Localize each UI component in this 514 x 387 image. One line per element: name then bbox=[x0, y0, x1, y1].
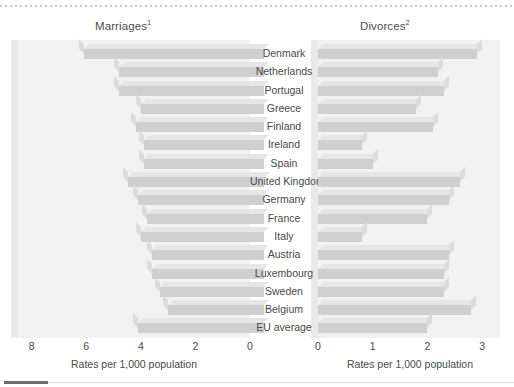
bar-end-cap bbox=[460, 167, 465, 182]
bar-top-face bbox=[318, 264, 449, 269]
marriages-title-footnote: 1 bbox=[147, 18, 151, 27]
bar-top-face bbox=[318, 282, 449, 287]
divorces-bar bbox=[318, 269, 444, 279]
divorces-axis-tick: 2 bbox=[424, 340, 430, 352]
marriages-axis-tick: 4 bbox=[138, 340, 144, 352]
chart-row: Finland bbox=[0, 117, 514, 135]
bar-end-cap bbox=[427, 313, 432, 328]
marriages-bar bbox=[84, 49, 264, 59]
divorces-axis-tick: 3 bbox=[479, 340, 485, 352]
divorces-bar bbox=[318, 305, 471, 315]
bar-top-face bbox=[318, 172, 465, 177]
divorces-axis-tick: 0 bbox=[315, 340, 321, 352]
bar-top-face bbox=[128, 172, 270, 177]
marriages-bar bbox=[138, 195, 264, 205]
bar-top-face bbox=[318, 135, 367, 140]
divorces-title-footnote: 2 bbox=[406, 18, 410, 27]
marriages-title-text: Marriages bbox=[95, 20, 147, 32]
divorces-bar bbox=[318, 323, 427, 333]
marriages-axis-label: Rates per 1,000 population bbox=[71, 358, 197, 370]
chart-row: Ireland bbox=[0, 135, 514, 153]
bar-top-face bbox=[84, 44, 269, 49]
country-label: Spain bbox=[250, 154, 318, 172]
bar-top-face bbox=[318, 318, 432, 323]
chart-row: Portugal bbox=[0, 81, 514, 99]
bar-top-face bbox=[318, 81, 449, 86]
bar-top-face bbox=[318, 300, 476, 305]
marriages-chart-title: Marriages1 bbox=[95, 18, 151, 32]
marriages-axis-tick: 2 bbox=[192, 340, 198, 352]
divorces-bar bbox=[318, 214, 427, 224]
bar-end-cap bbox=[449, 240, 454, 255]
country-label: Netherlands bbox=[250, 62, 318, 80]
bar-end-cap bbox=[449, 185, 454, 200]
divorces-chart-title: Divorces2 bbox=[360, 18, 410, 32]
bottom-marker bbox=[4, 381, 48, 384]
chart-row: France bbox=[0, 209, 514, 227]
bar-top-face bbox=[318, 227, 367, 232]
country-label: Ireland bbox=[250, 135, 318, 153]
chart-row: Italy bbox=[0, 227, 514, 245]
divorces-axis-tick: 1 bbox=[370, 340, 376, 352]
chart-row: Sweden bbox=[0, 282, 514, 300]
divorces-bar bbox=[318, 232, 362, 242]
country-label: Italy bbox=[250, 227, 318, 245]
divorces-title-text: Divorces bbox=[360, 20, 406, 32]
divorces-bar bbox=[318, 67, 438, 77]
country-label: France bbox=[250, 209, 318, 227]
country-label: United Kingdom bbox=[250, 172, 318, 190]
marriages-axis-tick: 0 bbox=[247, 340, 253, 352]
bar-top-face bbox=[318, 44, 482, 49]
chart-row: United Kingdom bbox=[0, 172, 514, 190]
marriages-bar bbox=[141, 104, 264, 114]
bar-top-face bbox=[318, 99, 421, 104]
chart-rows: DenmarkNetherlandsPortugalGreeceFinlandI… bbox=[0, 44, 514, 336]
bar-top-face bbox=[136, 117, 269, 122]
marriages-axis-tick: 8 bbox=[29, 340, 35, 352]
marriages-bar bbox=[138, 323, 264, 333]
divorces-bar bbox=[318, 250, 449, 260]
country-label: Sweden bbox=[250, 282, 318, 300]
country-label: Denmark bbox=[250, 44, 318, 62]
chart-row: Belgium bbox=[0, 300, 514, 318]
marriages-bar bbox=[144, 140, 264, 150]
bar-top-face bbox=[318, 190, 454, 195]
marriages-bar bbox=[147, 214, 264, 224]
divorces-bar bbox=[318, 104, 416, 114]
country-label: Belgium bbox=[250, 300, 318, 318]
marriages-bar bbox=[119, 67, 264, 77]
marriages-bar bbox=[144, 159, 264, 169]
bar-top-face bbox=[318, 117, 438, 122]
country-label: Germany bbox=[250, 190, 318, 208]
country-label: Portugal bbox=[250, 81, 318, 99]
bar-end-cap bbox=[427, 204, 432, 219]
marriages-bar bbox=[160, 287, 264, 297]
divorces-bar bbox=[318, 195, 449, 205]
chart-row: Austria bbox=[0, 245, 514, 263]
chart-row: Denmark bbox=[0, 44, 514, 62]
country-label: EU average bbox=[250, 318, 318, 336]
marriages-bar bbox=[136, 122, 264, 132]
bar-end-cap bbox=[416, 94, 421, 109]
marriages-bar bbox=[152, 250, 264, 260]
country-label: Austria bbox=[250, 245, 318, 263]
divorces-bar bbox=[318, 177, 460, 187]
bar-top-face bbox=[119, 81, 269, 86]
marriages-bar bbox=[119, 86, 264, 96]
bar-end-cap bbox=[433, 112, 438, 127]
country-label: Finland bbox=[250, 117, 318, 135]
chart-row: EU average bbox=[0, 318, 514, 336]
marriages-bar bbox=[152, 269, 264, 279]
chart-row: Germany bbox=[0, 190, 514, 208]
divorces-bar bbox=[318, 159, 373, 169]
divorces-axis-label: Rates per 1,000 population bbox=[347, 358, 473, 370]
chart-row: Netherlands bbox=[0, 62, 514, 80]
bar-top-face bbox=[119, 62, 269, 67]
bar-end-cap bbox=[362, 130, 367, 145]
divorces-bar bbox=[318, 287, 444, 297]
divorces-bar bbox=[318, 49, 477, 59]
country-label: Greece bbox=[250, 99, 318, 117]
chart-row: Luxembourg bbox=[0, 264, 514, 282]
bar-top-face bbox=[318, 245, 454, 250]
chart-row: Spain bbox=[0, 154, 514, 172]
